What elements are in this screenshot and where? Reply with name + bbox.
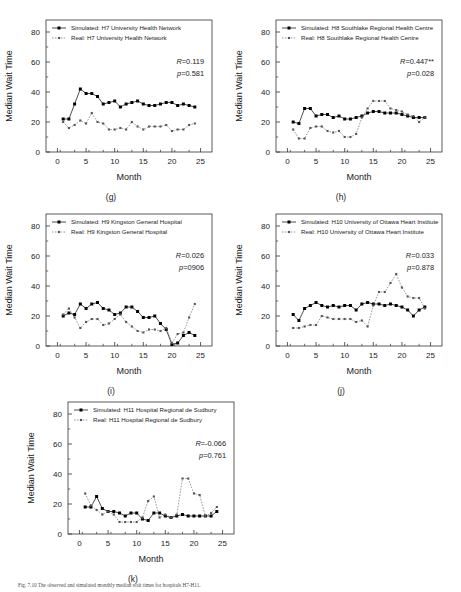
data-point — [355, 133, 357, 135]
data-point — [159, 330, 161, 332]
legend-marker — [80, 419, 82, 421]
chart-panel-i: 0510152025020406080MonthMedian Wait Time… — [0, 200, 222, 396]
data-point — [389, 303, 392, 306]
x-tick-label: 10 — [110, 351, 119, 360]
data-point — [182, 103, 185, 106]
data-point — [355, 116, 358, 119]
legend: Simulated: H11 Hospital Regional de Sudb… — [74, 406, 217, 423]
data-point — [171, 342, 173, 344]
data-point — [303, 307, 306, 310]
data-point — [395, 112, 398, 115]
data-point — [378, 291, 380, 293]
data-point — [361, 116, 363, 118]
data-point — [154, 125, 156, 127]
x-tick-label: 5 — [314, 157, 319, 166]
x-tick-label: 25 — [218, 539, 227, 548]
y-tick-label: 20 — [261, 118, 270, 127]
legend-label: Simulated: H10 University of Ottawa Hear… — [301, 218, 439, 225]
data-point — [378, 303, 381, 306]
legend-label: Real: H10 University of Ottawa Heart Ins… — [301, 228, 425, 235]
data-point — [107, 510, 109, 512]
x-tick-label: 0 — [285, 351, 290, 360]
data-point — [124, 521, 126, 523]
x-tick-label: 15 — [139, 157, 148, 166]
data-point — [332, 116, 335, 119]
data-point — [412, 297, 414, 299]
legend-marker — [80, 409, 83, 412]
x-axis-title: Month — [346, 366, 371, 376]
data-point — [96, 121, 98, 123]
data-point — [135, 512, 138, 515]
legend: Simulated: H10 University of Ottawa Hear… — [282, 218, 439, 235]
data-point — [194, 303, 196, 305]
legend-marker — [58, 27, 61, 30]
chart-panel-j: 0510152025020406080MonthMedian Wait Time… — [230, 200, 452, 396]
data-point — [216, 506, 218, 508]
data-point — [418, 297, 420, 299]
data-point — [389, 282, 391, 284]
series-real — [292, 273, 426, 329]
legend: Simulated: H8 Southlake Regional Health … — [282, 24, 434, 41]
x-axis-title: Month — [138, 554, 163, 564]
y-axis-title: Median Wait Time — [4, 244, 14, 316]
y-tick-label: 60 — [261, 58, 270, 67]
data-point — [343, 304, 346, 307]
data-point — [188, 104, 191, 107]
data-point — [68, 307, 70, 309]
plot-h: 0510152025020406080MonthMedian Wait Time… — [230, 6, 452, 188]
data-point — [418, 121, 420, 123]
data-point — [384, 100, 386, 102]
chart-panel-k: 0510152025020406080MonthMedian Wait Time… — [22, 388, 244, 584]
data-point — [84, 506, 87, 509]
data-point — [349, 118, 352, 121]
legend-label: Real: H8 Southlake Regional Health Centr… — [301, 34, 419, 41]
data-point — [176, 513, 178, 515]
data-point — [389, 107, 391, 109]
data-point — [79, 303, 82, 306]
data-point — [320, 304, 323, 307]
data-point — [153, 495, 155, 497]
data-point — [407, 295, 409, 297]
data-point — [344, 318, 346, 320]
data-point — [367, 325, 369, 327]
data-point — [148, 328, 150, 330]
data-point — [79, 119, 81, 121]
plot-j: 0510152025020406080MonthMedian Wait Time… — [230, 200, 452, 382]
data-point — [73, 103, 76, 106]
data-point — [298, 327, 300, 329]
data-point — [142, 316, 145, 319]
data-point — [170, 101, 173, 104]
legend-label: Real: H9 Kingston General Hospital — [71, 228, 167, 235]
x-tick-label: 20 — [397, 157, 406, 166]
data-point — [129, 512, 132, 515]
data-point — [130, 521, 132, 523]
x-axis-title: Month — [116, 172, 141, 182]
x-tick-label: 5 — [84, 157, 89, 166]
data-point — [372, 304, 374, 306]
data-point — [326, 306, 329, 309]
data-point — [119, 106, 122, 109]
data-point — [176, 342, 179, 345]
data-point — [74, 316, 76, 318]
x-tick-label: 0 — [55, 351, 60, 360]
legend: Simulated: H7 University Health NetworkR… — [52, 24, 182, 41]
data-point — [378, 110, 381, 113]
data-point — [321, 125, 323, 127]
data-point — [215, 510, 218, 513]
data-point — [118, 512, 121, 515]
data-point — [164, 513, 166, 515]
x-tick-label: 0 — [285, 157, 290, 166]
legend-marker — [58, 37, 60, 39]
data-point — [372, 100, 374, 102]
data-point — [181, 513, 184, 516]
data-point — [187, 515, 190, 518]
data-point — [154, 328, 156, 330]
data-point — [326, 130, 328, 132]
x-tick-label: 10 — [110, 157, 119, 166]
data-point — [315, 324, 317, 326]
data-point — [309, 107, 312, 110]
y-tick-label: 0 — [266, 148, 271, 157]
data-point — [153, 315, 156, 318]
data-point — [159, 516, 161, 518]
data-point — [378, 100, 380, 102]
